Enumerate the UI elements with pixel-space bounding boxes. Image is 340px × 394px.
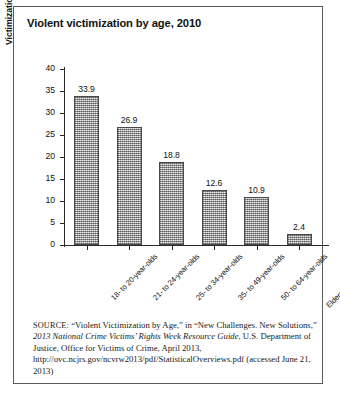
y-axis-title: Victimization rate per 1,000 (4, 0, 14, 45)
y-tick-label: 10 (45, 195, 55, 205)
bar-value-label: 10.9 (248, 185, 265, 195)
x-tick-mark (87, 246, 88, 250)
y-tick-label: 20 (45, 151, 55, 161)
bar-group[interactable]: 26.9 (117, 69, 142, 245)
y-tick-label: 30 (45, 107, 55, 117)
y-tick-label: 0 (50, 239, 55, 249)
bar[interactable] (287, 234, 312, 245)
y-tick-label: 35 (45, 85, 55, 95)
y-tick-mark (60, 245, 64, 246)
y-tick-label: 15 (45, 173, 55, 183)
bar[interactable] (117, 127, 142, 245)
bar[interactable] (202, 190, 227, 245)
bar-group[interactable]: 18.8 (159, 69, 184, 245)
page-title: Violent victimization by age, 2010 (27, 17, 201, 29)
bar-group[interactable]: 33.9 (74, 69, 99, 245)
y-tick-label: 5 (50, 217, 55, 227)
x-tick-mark (257, 246, 258, 250)
figure-frame: Violent victimization by age, 2010 Victi… (13, 6, 323, 384)
bar-value-label: 2.4 (293, 222, 305, 232)
x-tick-mark (299, 246, 300, 250)
bar-value-label: 33.9 (78, 84, 95, 94)
x-tick-mark (129, 246, 130, 250)
source-text-italic: 2013 National Crime Victims’ Rights Week… (33, 331, 239, 341)
x-tick-mark (214, 246, 215, 250)
bar-group[interactable]: 12.6 (202, 69, 227, 245)
bar-value-label: 26.9 (121, 115, 138, 125)
plot-area: 33.926.918.812.610.92.4 (64, 69, 322, 245)
bar[interactable] (244, 197, 269, 245)
bar-value-label: 18.8 (163, 150, 180, 160)
y-tick-label: 25 (45, 129, 55, 139)
bar-group[interactable]: 10.9 (244, 69, 269, 245)
bar-group[interactable]: 2.4 (287, 69, 312, 245)
x-axis-line (64, 245, 329, 246)
source-note: SOURCE: “Violent Victimization by Age,” … (33, 320, 325, 377)
bar[interactable] (74, 96, 99, 245)
x-tick-mark (172, 246, 173, 250)
y-tick-label: 40 (45, 63, 55, 73)
source-text-1: “Violent Victimization by Age,” in “New … (69, 320, 317, 330)
x-axis-label: 50- to 64-year-olds (279, 252, 329, 302)
bar[interactable] (159, 162, 184, 245)
source-label: SOURCE: (33, 321, 69, 330)
bar-value-label: 12.6 (206, 178, 223, 188)
